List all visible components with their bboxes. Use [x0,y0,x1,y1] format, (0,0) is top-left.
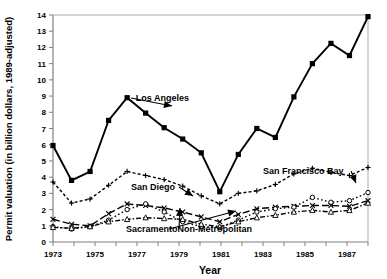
marker-open-circle [125,207,129,211]
y-tick-label: 9 [42,92,47,101]
y-tick-label: 14 [37,11,46,20]
x-tick-label: 1973 [44,250,62,259]
y-tick-label: 1 [42,222,47,231]
marker-filled-square [199,150,204,155]
marker-filled-square [125,95,130,100]
line-chart-canvas: 01234567891011121314 1973197519771979198… [0,0,387,279]
y-tick-label: 7 [42,125,47,134]
x-axis-title: Year [199,264,221,276]
y-tick-label: 6 [42,141,47,150]
y-tick-label: 5 [42,157,47,166]
marker-filled-square [328,41,333,46]
x-tick-label: 1987 [338,250,356,259]
y-tick-label: 12 [37,43,46,52]
marker-filled-square [347,53,352,58]
marker-filled-square [217,189,222,194]
marker-open-circle [162,210,166,214]
marker-filled-square [87,169,92,174]
y-tick-label: 11 [38,60,47,69]
y-tick-label: 4 [42,173,47,182]
y-tick-label: 2 [42,206,47,215]
marker-open-circle [347,198,351,202]
annotation-label: San Francisco Bay [263,166,344,176]
marker-open-circle [143,202,147,206]
marker-filled-square [273,135,278,140]
marker-filled-square [69,178,74,183]
marker-filled-square [236,152,241,157]
x-tick-label: 1979 [170,250,188,259]
y-tick-label: 0 [42,238,47,247]
marker-filled-square [254,126,259,131]
marker-filled-square [291,94,296,99]
marker-open-circle [255,210,259,214]
y-tick-label: 10 [37,76,46,85]
chart-figure: 01234567891011121314 1973197519771979198… [0,0,387,279]
y-tick-label: 13 [37,27,46,36]
marker-filled-square [180,136,185,141]
y-axis-title: Permit valuation (in billion dollars, 19… [3,17,14,241]
marker-open-circle [329,200,333,204]
x-tick-label: 1977 [128,250,146,259]
marker-open-circle [273,207,277,211]
marker-filled-square [143,110,148,115]
annotation-label: Los Angeles [136,93,189,103]
marker-filled-square [365,14,370,19]
marker-filled-square [106,118,111,123]
marker-filled-square [50,143,55,148]
x-tick-label: 1975 [86,250,104,259]
marker-filled-square [310,61,315,66]
x-tick-label: 1981 [212,250,230,259]
annotation-label: San Diego [131,182,176,192]
marker-open-circle [310,195,314,199]
marker-open-circle [366,190,370,194]
y-tick-label: 3 [42,189,47,198]
annotation-label: Non-Metropolitan [178,224,253,234]
x-tick-label: 1985 [296,250,314,259]
marker-filled-square [162,125,167,130]
x-tick-label: 1983 [254,250,272,259]
y-tick-label: 8 [42,108,47,117]
